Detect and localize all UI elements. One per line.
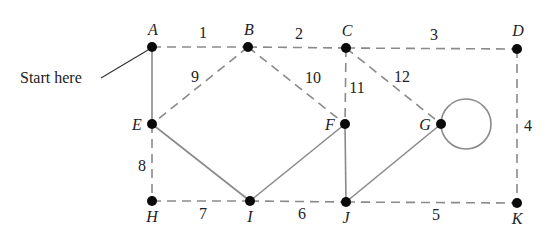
vertex-E <box>147 119 157 129</box>
vertex-B <box>243 42 253 52</box>
edge-label-10: 10 <box>305 69 321 86</box>
vertex-C <box>341 43 351 53</box>
vertex-label-J: J <box>342 209 350 226</box>
edge-label-1: 1 <box>199 24 207 41</box>
edge-B-E <box>152 47 248 124</box>
edge-F-J <box>345 124 346 202</box>
vertex-D <box>512 44 522 54</box>
vertex-label-A: A <box>147 21 158 38</box>
labels-layer: 123456789101112ABCDEFGHIJK <box>131 21 532 227</box>
edge-J-G <box>346 124 441 202</box>
vertex-label-G: G <box>419 116 431 133</box>
vertex-label-K: K <box>511 210 524 227</box>
vertex-I <box>245 196 255 206</box>
edge-I-J <box>250 201 346 202</box>
vertex-label-F: F <box>324 116 335 133</box>
vertex-label-I: I <box>246 208 253 225</box>
edge-G-G <box>441 99 491 149</box>
vertex-J <box>341 197 351 207</box>
edge-label-7: 7 <box>199 205 207 222</box>
edge-I-F <box>250 124 345 201</box>
vertex-K <box>512 198 522 208</box>
edge-C-D <box>346 48 517 49</box>
vertex-label-D: D <box>511 22 524 39</box>
start-here-label: Start here <box>20 69 82 86</box>
edge-label-6: 6 <box>298 205 306 222</box>
edge-label-12: 12 <box>394 68 410 85</box>
edge-label-9: 9 <box>191 68 199 85</box>
edge-B-F <box>248 47 345 124</box>
edge-label-8: 8 <box>138 157 146 174</box>
vertex-A <box>147 42 157 52</box>
vertex-H <box>147 196 157 206</box>
graph-canvas: Start here 123456789101112ABCDEFGHIJK <box>0 0 552 237</box>
vertex-F <box>340 119 350 129</box>
edge-B-C <box>248 47 346 48</box>
vertex-label-B: B <box>244 21 254 38</box>
edge-J-K <box>346 202 517 203</box>
edge-label-2: 2 <box>295 25 303 42</box>
edge-label-3: 3 <box>430 26 438 43</box>
vertex-label-E: E <box>131 116 142 133</box>
edge-label-4: 4 <box>524 117 532 134</box>
start-pointer: Start here <box>20 50 148 86</box>
vertex-label-H: H <box>145 208 159 225</box>
vertex-G <box>436 119 446 129</box>
edge-label-11: 11 <box>349 79 364 96</box>
edge-C-F <box>345 48 346 124</box>
start-pointer-line <box>101 50 148 78</box>
graph-diagram: Start here 123456789101112ABCDEFGHIJK <box>0 0 552 237</box>
edge-label-5: 5 <box>432 206 440 223</box>
edge-E-I <box>152 124 250 201</box>
vertex-label-C: C <box>342 22 353 39</box>
